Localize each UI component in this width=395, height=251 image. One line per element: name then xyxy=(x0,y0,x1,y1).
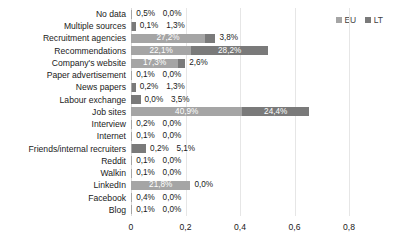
value-label-lt: 0,0% xyxy=(163,204,182,216)
category-label: News papers xyxy=(76,81,126,93)
stacked-bar xyxy=(131,120,132,129)
bar-segment-lt[interactable] xyxy=(132,22,136,31)
value-label-eu: 0,4% xyxy=(136,192,155,204)
bar-segment-eu[interactable] xyxy=(131,120,132,129)
x-tick-label: 0 xyxy=(129,222,134,232)
stacked-bar xyxy=(131,22,136,31)
category-label: Company's website xyxy=(52,57,126,69)
category-label: Labour exchange xyxy=(60,94,126,106)
category-label: Recommendations xyxy=(54,45,126,57)
value-label-lt: 0,0% xyxy=(163,167,182,179)
category-label: Friends/internal recruiters xyxy=(29,143,126,155)
bar-row[interactable]: LinkedIn21,8%0,0% xyxy=(131,179,349,191)
x-tick-label: 0,4 xyxy=(234,222,246,232)
bar-row[interactable]: Recommendations22,1%28,2% xyxy=(131,45,349,57)
value-label-eu: 17,3% xyxy=(143,57,166,69)
bar-row[interactable]: Recruitment agencies27,2%3,8% xyxy=(131,32,349,44)
bar-segment-eu[interactable] xyxy=(131,193,132,202)
bar-segment-eu[interactable] xyxy=(131,205,132,214)
category-label: Recruitment agencies xyxy=(43,32,126,44)
stacked-bar xyxy=(131,193,132,202)
stacked-bar xyxy=(131,10,132,19)
bar-segment-eu[interactable] xyxy=(131,132,132,141)
bar-row[interactable]: Blog0,1%0,0% xyxy=(131,204,349,216)
value-label-lt: 3,5% xyxy=(171,94,190,106)
value-label-eu: 21,8% xyxy=(149,179,172,191)
value-label-eu: 0,1% xyxy=(136,155,155,167)
bar-segment-eu[interactable] xyxy=(131,169,132,178)
legend-label-lt: LT xyxy=(374,16,383,25)
bar-segment-eu[interactable] xyxy=(131,10,132,19)
category-label: Interview xyxy=(92,118,126,130)
category-label: Paper advertisement xyxy=(47,69,126,81)
category-label: Reddit xyxy=(101,155,126,167)
bar-segment-lt[interactable] xyxy=(205,34,215,43)
x-axis-ticks: 00,20,40,60,8 xyxy=(131,222,349,236)
bar-row[interactable]: Facebook0,4%0,0% xyxy=(131,192,349,204)
value-label-eu: 0,1% xyxy=(136,130,155,142)
bar-row[interactable]: Reddit0,1%0,0% xyxy=(131,155,349,167)
bar-segment-eu[interactable] xyxy=(131,156,132,165)
bar-row[interactable]: Job sites40,9%24,4% xyxy=(131,106,349,118)
category-label: Job sites xyxy=(92,106,126,118)
value-label-lt: 5,1% xyxy=(176,143,195,155)
stacked-bar xyxy=(131,156,132,165)
bar-chart: EU LT No data0,5%0,0%Multiple sources0,1… xyxy=(0,0,395,251)
value-label-lt: 0,0% xyxy=(163,118,182,130)
x-tick-label: 0,8 xyxy=(343,222,355,232)
bar-row[interactable]: Labour exchange0,0%3,5% xyxy=(131,94,349,106)
value-label-eu: 0,1% xyxy=(136,167,155,179)
value-label-eu: 0,2% xyxy=(136,118,155,130)
value-label-lt: 1,3% xyxy=(166,20,185,32)
value-label-lt: 0,0% xyxy=(163,8,182,20)
bar-segment-lt[interactable] xyxy=(131,95,141,104)
plot-area: No data0,5%0,0%Multiple sources0,1%1,3%R… xyxy=(131,8,349,216)
bar-rows: No data0,5%0,0%Multiple sources0,1%1,3%R… xyxy=(131,8,349,216)
category-label: LinkedIn xyxy=(94,179,127,191)
stacked-bar xyxy=(131,169,132,178)
category-label: Multiple sources xyxy=(64,20,126,32)
category-label: No data xyxy=(96,8,126,20)
category-label: Blog xyxy=(109,204,126,216)
value-label-lt: 24,4% xyxy=(264,106,287,118)
stacked-bar xyxy=(131,132,132,141)
bar-segment-lt[interactable] xyxy=(178,59,185,68)
value-label-eu: 0,1% xyxy=(140,20,159,32)
bar-segment-lt[interactable] xyxy=(132,144,146,153)
value-label-eu: 0,5% xyxy=(136,8,155,20)
bar-segment-eu[interactable] xyxy=(131,71,132,80)
value-label-lt: 0,0% xyxy=(163,192,182,204)
value-label-lt: 0,0% xyxy=(163,155,182,167)
value-label-lt: 2,6% xyxy=(189,57,208,69)
value-label-lt: 3,8% xyxy=(219,32,238,44)
x-tick-label: 0,6 xyxy=(289,222,301,232)
value-label-eu: 22,1% xyxy=(150,45,173,57)
legend-item-lt[interactable]: LT xyxy=(365,16,383,25)
bar-row[interactable]: Multiple sources0,1%1,3% xyxy=(131,20,349,32)
value-label-lt: 1,3% xyxy=(166,81,185,93)
stacked-bar xyxy=(131,71,132,80)
stacked-bar xyxy=(131,144,146,153)
value-label-lt: 0,0% xyxy=(194,179,213,191)
stacked-bar xyxy=(131,95,141,104)
bar-row[interactable]: Friends/internal recruiters0,2%5,1% xyxy=(131,143,349,155)
value-label-eu: 40,9% xyxy=(175,106,198,118)
stacked-bar xyxy=(131,205,132,214)
value-label-lt: 0,0% xyxy=(163,69,182,81)
bar-row[interactable]: Company's website17,3%2,6% xyxy=(131,57,349,69)
x-tick-label: 0,2 xyxy=(180,222,192,232)
value-label-lt: 0,0% xyxy=(163,130,182,142)
bar-row[interactable]: Internet0,1%0,0% xyxy=(131,130,349,142)
value-label-eu: 0,1% xyxy=(136,69,155,81)
category-label: Facebook xyxy=(88,192,126,204)
bar-segment-lt[interactable] xyxy=(132,83,136,92)
bar-row[interactable]: Paper advertisement0,1%0,0% xyxy=(131,69,349,81)
bar-row[interactable]: Interview0,2%0,0% xyxy=(131,118,349,130)
legend-swatch-lt xyxy=(365,17,371,23)
bar-row[interactable]: News papers0,2%1,3% xyxy=(131,81,349,93)
bar-row[interactable]: No data0,5%0,0% xyxy=(131,8,349,20)
category-label: Walkin xyxy=(101,167,126,179)
value-label-eu: 0,0% xyxy=(145,94,164,106)
bar-row[interactable]: Walkin0,1%0,0% xyxy=(131,167,349,179)
value-label-eu: 27,2% xyxy=(156,32,179,44)
